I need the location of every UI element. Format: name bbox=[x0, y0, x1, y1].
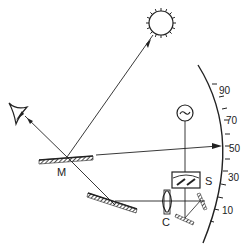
slit-box bbox=[172, 172, 200, 188]
scale-label-10: 10 bbox=[222, 205, 234, 216]
slit-label: S bbox=[205, 175, 212, 187]
arrowhead-icon bbox=[146, 39, 151, 48]
diagram-canvas: M S C bbox=[0, 0, 251, 251]
eye-icon bbox=[9, 103, 27, 124]
mirror-lower bbox=[87, 193, 137, 213]
curved-scale: 90 70 50 30 10 bbox=[198, 65, 241, 243]
mirror-m-label: M bbox=[57, 166, 66, 178]
ray-internal bbox=[185, 200, 201, 218]
ray-mirror-to-scale bbox=[96, 146, 218, 155]
scale-label-30: 30 bbox=[228, 172, 240, 183]
mirror-small-right bbox=[197, 193, 207, 210]
ac-source-icon bbox=[177, 105, 193, 121]
sun-icon bbox=[146, 8, 176, 38]
scale-label-70: 70 bbox=[226, 115, 238, 126]
condenser-label: C bbox=[162, 216, 170, 228]
scale-label-50: 50 bbox=[229, 143, 241, 154]
mirror-m bbox=[39, 156, 93, 164]
condenser-lens bbox=[163, 190, 172, 214]
ray-sun-to-mirror bbox=[67, 35, 153, 157]
mirror-small-bottom bbox=[175, 214, 194, 225]
scale-label-90: 90 bbox=[219, 85, 231, 96]
